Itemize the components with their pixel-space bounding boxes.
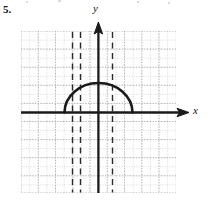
coordinate-axes (21, 22, 189, 193)
figure-container: 5. y x (0, 0, 208, 207)
graph-plot (0, 0, 208, 207)
